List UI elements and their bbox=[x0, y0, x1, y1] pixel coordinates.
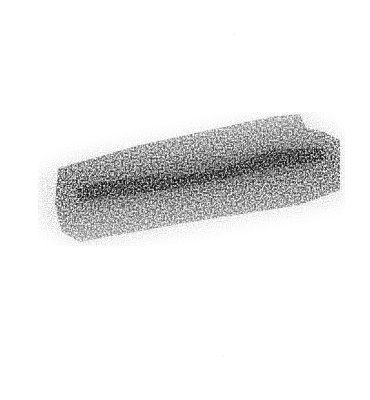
brush-stroke bbox=[0, 0, 370, 400]
image-canvas bbox=[0, 0, 370, 400]
speck bbox=[233, 33, 235, 35]
speck bbox=[222, 355, 224, 357]
